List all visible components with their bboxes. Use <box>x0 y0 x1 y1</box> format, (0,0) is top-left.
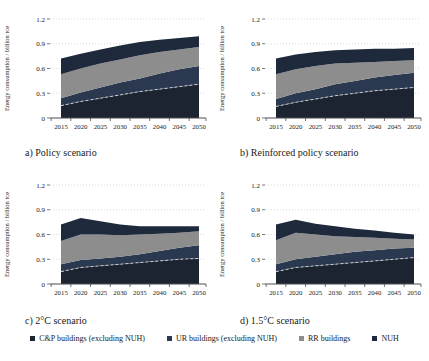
stacked-area-chart-policy: 00.30.60.91.2Energy consumption / billio… <box>0 6 212 133</box>
chart-title-policy: a) Policy scenario <box>25 147 214 158</box>
stacked-area-chart-reinforced-policy: 00.30.60.91.2Energy consumption / billio… <box>215 6 427 133</box>
legend-item-rr-buildings: RR buildings <box>299 334 350 343</box>
svg-text:2025: 2025 <box>309 123 323 130</box>
svg-text:2025: 2025 <box>94 123 108 130</box>
svg-text:2045: 2045 <box>172 289 186 296</box>
svg-text:1.2: 1.2 <box>36 16 45 24</box>
svg-text:2020: 2020 <box>289 123 303 130</box>
svg-text:0: 0 <box>257 115 261 123</box>
legend-label-ur-buildings: UR buildings (excluding NUH) <box>176 334 277 343</box>
svg-text:0.3: 0.3 <box>251 256 260 264</box>
nuh-swatch-icon <box>372 336 377 341</box>
svg-text:1.2: 1.2 <box>36 182 45 190</box>
svg-text:2030: 2030 <box>328 123 342 130</box>
svg-text:0.6: 0.6 <box>251 65 260 73</box>
figure-energy-consumption-scenarios: 00.30.60.91.2Energy consumption / billio… <box>0 0 429 361</box>
svg-text:2030: 2030 <box>328 289 342 296</box>
svg-text:0.3: 0.3 <box>251 90 260 98</box>
chart-cell-policy: 00.30.60.91.2Energy consumption / billio… <box>0 6 214 158</box>
svg-text:2020: 2020 <box>74 123 88 130</box>
svg-text:0.3: 0.3 <box>36 256 45 264</box>
chart-cell-2c: 00.30.60.91.2Energy consumption / billio… <box>0 172 214 326</box>
svg-text:2040: 2040 <box>153 123 167 130</box>
svg-text:2035: 2035 <box>133 123 147 130</box>
legend-item-cp-buildings: C&P buildings (excluding NUH) <box>30 334 145 343</box>
svg-text:2040: 2040 <box>368 289 382 296</box>
svg-text:2015: 2015 <box>54 123 68 130</box>
chart-title-2c: c) 2°C scenario <box>25 315 214 326</box>
svg-text:2045: 2045 <box>387 289 401 296</box>
rr-buildings-swatch-icon <box>299 336 304 341</box>
svg-text:2035: 2035 <box>348 123 362 130</box>
svg-text:2020: 2020 <box>74 289 88 296</box>
legend-item-nuh: NUH <box>372 334 398 343</box>
legend-label-cp-buildings: C&P buildings (excluding NUH) <box>39 334 145 343</box>
svg-text:2040: 2040 <box>368 123 382 130</box>
svg-text:1.2: 1.2 <box>251 16 260 24</box>
svg-text:2050: 2050 <box>192 123 206 130</box>
chart-cell-reinforced-policy: 00.30.60.91.2Energy consumption / billio… <box>215 6 429 158</box>
svg-text:2035: 2035 <box>133 289 147 296</box>
svg-text:Energy consumption / billion t: Energy consumption / billion tce <box>218 192 225 277</box>
svg-text:Energy consumption / billion t: Energy consumption / billion tce <box>3 192 10 277</box>
svg-text:1.2: 1.2 <box>251 182 260 190</box>
chart-title-1-5c: d) 1.5°C scenario <box>240 315 429 326</box>
svg-text:0.9: 0.9 <box>36 206 45 214</box>
legend-label-nuh: NUH <box>381 334 398 343</box>
svg-text:0.6: 0.6 <box>251 231 260 239</box>
svg-text:0: 0 <box>257 281 261 289</box>
cp-buildings-swatch-icon <box>30 336 35 341</box>
svg-text:0.6: 0.6 <box>36 231 45 239</box>
svg-text:0.9: 0.9 <box>251 206 260 214</box>
legend-item-ur-buildings: UR buildings (excluding NUH) <box>167 334 277 343</box>
svg-text:2025: 2025 <box>309 289 323 296</box>
svg-text:2025: 2025 <box>94 289 108 296</box>
svg-text:2015: 2015 <box>269 289 283 296</box>
svg-text:2045: 2045 <box>172 123 186 130</box>
svg-text:0: 0 <box>42 281 46 289</box>
ur-buildings-swatch-icon <box>167 336 172 341</box>
legend-label-rr-buildings: RR buildings <box>308 334 350 343</box>
svg-text:Energy consumption / billion t: Energy consumption / billion tce <box>3 26 10 111</box>
svg-text:2050: 2050 <box>407 289 421 296</box>
svg-text:0.3: 0.3 <box>36 90 45 98</box>
svg-text:0: 0 <box>42 115 46 123</box>
svg-text:2035: 2035 <box>348 289 362 296</box>
svg-text:2050: 2050 <box>192 289 206 296</box>
svg-text:2020: 2020 <box>289 289 303 296</box>
chart-cell-1-5c: 00.30.60.91.2Energy consumption / billio… <box>215 172 429 326</box>
svg-text:0.9: 0.9 <box>36 40 45 48</box>
svg-text:2045: 2045 <box>387 123 401 130</box>
legend: C&P buildings (excluding NUH) UR buildin… <box>0 334 429 343</box>
svg-text:0.9: 0.9 <box>251 40 260 48</box>
svg-text:2030: 2030 <box>113 123 127 130</box>
svg-text:0.6: 0.6 <box>36 65 45 73</box>
svg-text:2050: 2050 <box>407 123 421 130</box>
svg-text:2040: 2040 <box>153 289 167 296</box>
svg-text:2030: 2030 <box>113 289 127 296</box>
chart-title-reinforced-policy: b) Reinforced policy scenario <box>240 147 429 158</box>
stacked-area-chart-1-5c: 00.30.60.91.2Energy consumption / billio… <box>215 172 427 299</box>
svg-text:Energy consumption / billion t: Energy consumption / billion tce <box>218 26 225 111</box>
svg-text:2015: 2015 <box>54 289 68 296</box>
svg-text:2015: 2015 <box>269 123 283 130</box>
stacked-area-chart-2c: 00.30.60.91.2Energy consumption / billio… <box>0 172 212 299</box>
